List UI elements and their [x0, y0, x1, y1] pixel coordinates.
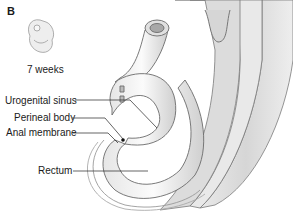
cloaca-illustration — [0, 0, 293, 212]
embryo-icon — [28, 20, 53, 53]
label-urogenital-sinus: Urogenital sinus — [5, 95, 77, 106]
leader-anal-membrane — [73, 133, 118, 143]
label-anal-membrane: Anal membrane — [6, 127, 77, 138]
urogenital-sinus — [110, 74, 176, 145]
embryo-age-label: 7 weeks — [27, 64, 64, 75]
leader-perineal-body — [72, 118, 123, 139]
label-rectum: Rectum — [38, 165, 72, 176]
label-perineal-body: Perineal body — [14, 112, 75, 123]
allantois-stalk — [115, 10, 230, 83]
